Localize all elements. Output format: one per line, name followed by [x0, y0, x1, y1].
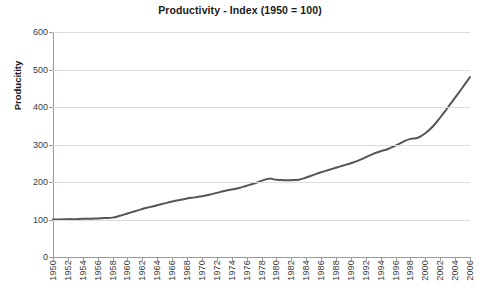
x-tick-mark-1976	[247, 258, 248, 261]
x-tick-mark-1984	[306, 258, 307, 261]
x-tick-mark-2002	[440, 258, 441, 261]
x-tick-label-1960: 1960	[122, 260, 132, 281]
x-tick-label-1988: 1988	[331, 260, 341, 281]
y-tick-mark-600	[49, 32, 53, 33]
x-tick-label-1972: 1972	[212, 260, 222, 281]
x-tick-mark-1996	[396, 258, 397, 261]
chart-title: Productivity - Index (1950 = 100)	[0, 4, 480, 16]
x-tick-label-1982: 1982	[286, 260, 296, 281]
y-tick-label-0: 0	[4, 252, 48, 262]
x-tick-mark-1998	[410, 258, 411, 261]
gridline-200	[53, 182, 470, 183]
y-tick-label-500: 500	[4, 65, 48, 75]
y-tick-mark-300	[49, 145, 53, 146]
x-axis-tick-labels: 1950195219541956195819601962196419661968…	[53, 258, 471, 296]
x-tick-label-1952: 1952	[63, 260, 73, 281]
x-tick-mark-1970	[202, 258, 203, 261]
x-tick-label-1990: 1990	[346, 260, 356, 281]
y-tick-mark-100	[49, 220, 53, 221]
x-tick-mark-1962	[142, 258, 143, 261]
x-tick-label-1992: 1992	[361, 260, 371, 281]
x-tick-label-1956: 1956	[93, 260, 103, 281]
productivity-line-path	[53, 77, 470, 220]
x-tick-label-1984: 1984	[301, 260, 311, 281]
x-tick-mark-1994	[381, 258, 382, 261]
x-tick-label-1964: 1964	[152, 260, 162, 281]
x-tick-mark-2004	[455, 258, 456, 261]
gridline-500	[53, 70, 470, 71]
x-tick-label-1998: 1998	[405, 260, 415, 281]
x-tick-label-1986: 1986	[316, 260, 326, 281]
x-tick-mark-1964	[157, 258, 158, 261]
x-tick-mark-1974	[232, 258, 233, 261]
x-tick-label-1958: 1958	[108, 260, 118, 281]
x-tick-mark-1966	[172, 258, 173, 261]
y-axis-tick-labels: 0100200300400500600	[0, 32, 48, 258]
x-tick-label-2004: 2004	[450, 260, 460, 281]
x-tick-label-1994: 1994	[376, 260, 386, 281]
x-tick-mark-1950	[53, 258, 54, 261]
x-tick-mark-1982	[291, 258, 292, 261]
x-tick-mark-1988	[336, 258, 337, 261]
x-tick-label-1980: 1980	[271, 260, 281, 281]
y-tick-mark-500	[49, 70, 53, 71]
x-tick-label-1950: 1950	[48, 260, 58, 281]
gridline-400	[53, 107, 470, 108]
plot-area	[53, 32, 470, 257]
x-tick-label-2000: 2000	[420, 260, 430, 281]
x-tick-mark-1992	[366, 258, 367, 261]
x-tick-label-1962: 1962	[137, 260, 147, 281]
gridline-300	[53, 145, 470, 146]
x-tick-mark-1956	[98, 258, 99, 261]
x-tick-mark-1990	[351, 258, 352, 261]
x-tick-mark-2000	[425, 258, 426, 261]
x-tick-mark-1980	[276, 258, 277, 261]
y-tick-mark-0	[49, 257, 53, 258]
x-tick-mark-1960	[127, 258, 128, 261]
y-tick-label-100: 100	[4, 215, 48, 225]
gridline-600	[53, 32, 470, 33]
y-tick-mark-400	[49, 107, 53, 108]
y-tick-label-200: 200	[4, 177, 48, 187]
x-tick-label-1976: 1976	[242, 260, 252, 281]
x-tick-mark-1968	[187, 258, 188, 261]
x-tick-mark-1986	[321, 258, 322, 261]
x-tick-mark-1972	[217, 258, 218, 261]
y-tick-label-300: 300	[4, 140, 48, 150]
x-tick-label-1970: 1970	[197, 260, 207, 281]
x-tick-label-1968: 1968	[182, 260, 192, 281]
x-tick-label-1954: 1954	[78, 260, 88, 281]
x-tick-label-1974: 1974	[227, 260, 237, 281]
x-tick-mark-1952	[68, 258, 69, 261]
y-tick-mark-200	[49, 182, 53, 183]
gridline-100	[53, 220, 470, 221]
x-tick-label-2002: 2002	[435, 260, 445, 281]
x-tick-label-1996: 1996	[391, 260, 401, 281]
y-tick-label-400: 400	[4, 102, 48, 112]
x-tick-mark-2006	[470, 258, 471, 261]
x-tick-mark-1954	[83, 258, 84, 261]
productivity-line-chart: Productivity - Index (1950 = 100) Produc…	[0, 0, 480, 296]
x-tick-label-1978: 1978	[257, 260, 267, 281]
x-tick-mark-1978	[262, 258, 263, 261]
x-tick-label-2006: 2006	[465, 260, 475, 281]
x-tick-mark-1958	[113, 258, 114, 261]
y-tick-label-600: 600	[4, 27, 48, 37]
x-tick-label-1966: 1966	[167, 260, 177, 281]
